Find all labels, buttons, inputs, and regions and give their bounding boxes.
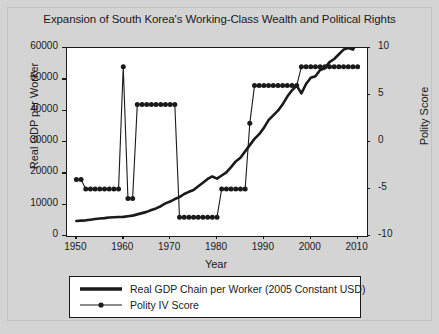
polity-data-point bbox=[275, 83, 280, 88]
legend-label-polity: Polity IV Score bbox=[130, 299, 199, 311]
polity-data-point bbox=[168, 102, 173, 107]
y-tick-label-left: 40000 bbox=[4, 103, 58, 114]
polity-data-point bbox=[257, 83, 262, 88]
polity-data-point bbox=[336, 64, 341, 69]
polity-data-point bbox=[74, 177, 79, 182]
polity-data-point bbox=[135, 102, 140, 107]
plot-canvas bbox=[67, 48, 367, 236]
polity-data-point bbox=[346, 64, 351, 69]
x-axis-label: Year bbox=[66, 258, 366, 270]
chart-legend: Real GDP Chain per Worker (2005 Constant… bbox=[69, 276, 361, 318]
polity-data-point bbox=[107, 187, 112, 192]
polity-data-point bbox=[350, 64, 355, 69]
polity-data-point bbox=[102, 187, 107, 192]
polity-data-point bbox=[266, 83, 271, 88]
legend-label-gdp: Real GDP Chain per Worker (2005 Constant… bbox=[130, 283, 365, 295]
polity-data-point bbox=[140, 102, 145, 107]
polity-data-point bbox=[130, 196, 135, 201]
polity-data-point bbox=[182, 215, 187, 220]
polity-data-point bbox=[313, 64, 318, 69]
polity-data-point bbox=[172, 102, 177, 107]
polity-data-point bbox=[210, 215, 215, 220]
y-tick-label-right: -10 bbox=[378, 228, 392, 239]
polity-data-point bbox=[177, 215, 182, 220]
polity-data-point bbox=[93, 187, 98, 192]
polity-data-point bbox=[116, 187, 121, 192]
polity-data-point bbox=[238, 187, 243, 192]
polity-data-point bbox=[97, 187, 102, 192]
polity-data-point bbox=[299, 64, 304, 69]
legend-item-polity: Polity IV Score bbox=[78, 297, 199, 313]
polity-data-point bbox=[83, 187, 88, 192]
y-tick-label-left: 10000 bbox=[4, 197, 58, 208]
x-tick-label: 2010 bbox=[337, 241, 377, 252]
polity-data-point bbox=[280, 83, 285, 88]
polity-data-point bbox=[355, 64, 360, 69]
polity-data-point bbox=[149, 102, 154, 107]
polity-data-point bbox=[158, 102, 163, 107]
chart-title: Expansion of South Korea's Working-Class… bbox=[0, 13, 439, 25]
y-tick-label-right: 0 bbox=[378, 134, 384, 145]
gdp-line bbox=[76, 48, 357, 221]
polity-data-point bbox=[144, 102, 149, 107]
polity-data-point bbox=[121, 64, 126, 69]
polity-data-point bbox=[271, 83, 276, 88]
x-tick-label: 2000 bbox=[290, 241, 330, 252]
polity-data-point bbox=[88, 187, 93, 192]
polity-line bbox=[76, 67, 357, 217]
y-tick-label-left: 20000 bbox=[4, 165, 58, 176]
polity-data-point bbox=[125, 196, 130, 201]
legend-key-thick-line bbox=[78, 282, 124, 296]
polity-data-point bbox=[247, 121, 252, 126]
x-tick-label: 1970 bbox=[149, 241, 189, 252]
y-axis-label-right: Polity Score bbox=[418, 36, 430, 196]
polity-data-point bbox=[243, 187, 248, 192]
polity-data-point bbox=[219, 187, 224, 192]
polity-data-point bbox=[191, 215, 196, 220]
polity-data-point bbox=[308, 64, 313, 69]
y-tick-label-left: 50000 bbox=[4, 71, 58, 82]
polity-data-point bbox=[304, 64, 309, 69]
polity-data-point bbox=[200, 215, 205, 220]
plot-area bbox=[66, 47, 368, 237]
polity-data-point bbox=[332, 64, 337, 69]
polity-data-point bbox=[233, 187, 238, 192]
y-tick-label-right: -5 bbox=[378, 181, 387, 192]
legend-item-gdp: Real GDP Chain per Worker (2005 Constant… bbox=[78, 281, 365, 297]
polity-data-point bbox=[154, 102, 159, 107]
x-tick-label: 1980 bbox=[196, 241, 236, 252]
polity-data-point bbox=[285, 83, 290, 88]
chart-figure: Expansion of South Korea's Working-Class… bbox=[0, 0, 439, 334]
y-tick-label-left: 0 bbox=[4, 228, 58, 239]
y-tick-label-right: 10 bbox=[378, 40, 389, 51]
y-tick-label-left: 30000 bbox=[4, 134, 58, 145]
legend-key-line-marker bbox=[78, 298, 124, 312]
y-tick-label-left: 60000 bbox=[4, 40, 58, 51]
polity-data-point bbox=[111, 187, 116, 192]
polity-data-point bbox=[79, 177, 84, 182]
x-tick-label: 1960 bbox=[102, 241, 142, 252]
y-tick-label-right: 5 bbox=[378, 87, 384, 98]
polity-data-point bbox=[205, 215, 210, 220]
x-tick-label: 1950 bbox=[55, 241, 95, 252]
polity-markers bbox=[74, 64, 360, 219]
polity-data-point bbox=[252, 83, 257, 88]
polity-data-point bbox=[215, 215, 220, 220]
polity-data-point bbox=[163, 102, 168, 107]
x-tick-label: 1990 bbox=[243, 241, 283, 252]
polity-data-point bbox=[196, 215, 201, 220]
series-gdp bbox=[76, 48, 357, 221]
polity-data-point bbox=[229, 187, 234, 192]
polity-data-point bbox=[224, 187, 229, 192]
polity-data-point bbox=[186, 215, 191, 220]
polity-data-point bbox=[261, 83, 266, 88]
series-polity bbox=[74, 64, 360, 219]
polity-data-point bbox=[341, 64, 346, 69]
